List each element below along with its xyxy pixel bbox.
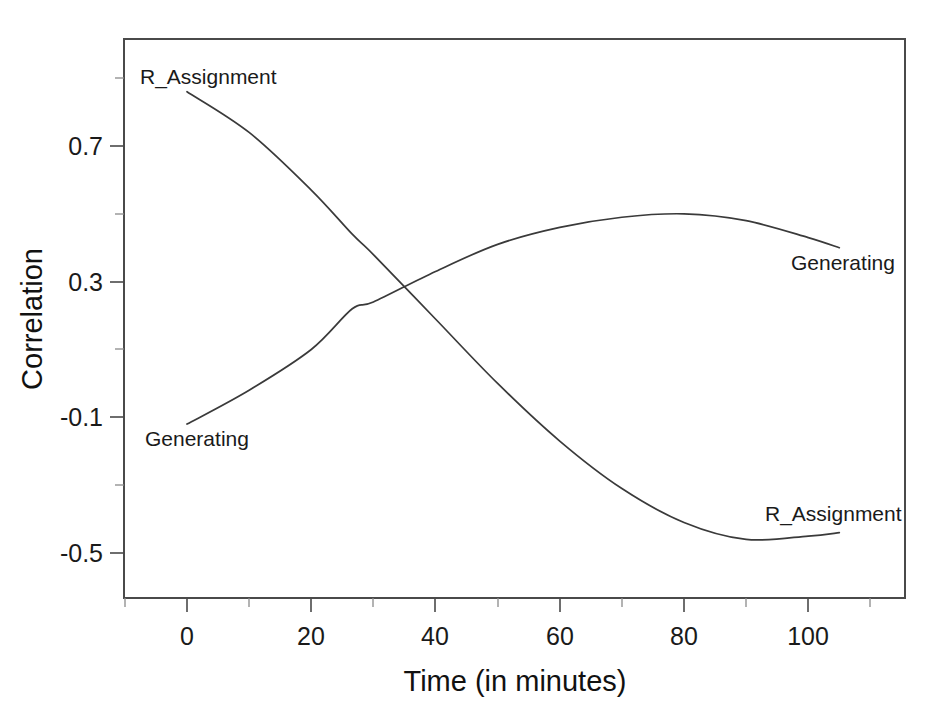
series-label-generating-left: Generating: [145, 427, 249, 450]
x-axis-minor-ticks: [125, 598, 870, 607]
y-tick-label-1: 0.3: [68, 268, 103, 296]
chart-figure: 0.7 0.3 -0.1 -0.5 0 20 40 60 80 100 Time…: [0, 0, 940, 718]
x-tick-label-4: 80: [670, 622, 698, 650]
x-tick-label-1: 20: [297, 622, 325, 650]
y-tick-label-0: 0.7: [68, 132, 103, 160]
y-axis-title: Correlation: [16, 248, 48, 390]
x-tick-label-3: 60: [546, 622, 574, 650]
x-tick-label-2: 40: [421, 622, 449, 650]
series-label-r-assignment-right: R_Assignment: [765, 502, 902, 526]
series-label-r-assignment-left: R_Assignment: [140, 65, 277, 89]
series-line-generating: [187, 214, 839, 424]
y-tick-label-2: -0.1: [60, 403, 103, 431]
x-axis-title: Time (in minutes): [404, 665, 627, 697]
correlation-line-chart: 0.7 0.3 -0.1 -0.5 0 20 40 60 80 100 Time…: [0, 0, 940, 718]
y-tick-label-3: -0.5: [60, 539, 103, 567]
x-tick-label-0: 0: [180, 622, 194, 650]
series-label-generating-right: Generating: [791, 251, 895, 274]
series-line-r-assignment: [187, 92, 839, 540]
x-tick-label-5: 100: [787, 622, 829, 650]
